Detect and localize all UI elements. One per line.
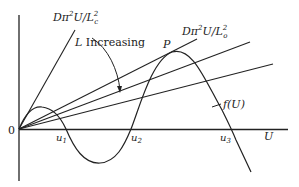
root-u1-label: u1 bbox=[56, 132, 67, 145]
f-curve bbox=[19, 51, 251, 172]
line-mid bbox=[19, 42, 250, 129]
increasing-label: L Increasing bbox=[74, 36, 145, 49]
line-lo-label: Dπ2U/L2o bbox=[181, 24, 228, 40]
peak-label: P bbox=[162, 38, 171, 51]
root-u2-label: u2 bbox=[131, 132, 142, 145]
line-low bbox=[19, 64, 273, 129]
curve-label: f(U) bbox=[222, 98, 245, 111]
x-axis-label: U bbox=[264, 130, 274, 143]
diagram-figure: 0 U Dπ2U/L2c Dπ2U/L2o L Increasing P f(U… bbox=[0, 0, 299, 187]
line-lc-label: Dπ2U/L2c bbox=[52, 10, 99, 26]
root-u3-label: u3 bbox=[220, 132, 231, 145]
diagram-svg: 0 U Dπ2U/L2c Dπ2U/L2o L Increasing P f(U… bbox=[0, 0, 299, 187]
origin-label: 0 bbox=[8, 124, 15, 137]
